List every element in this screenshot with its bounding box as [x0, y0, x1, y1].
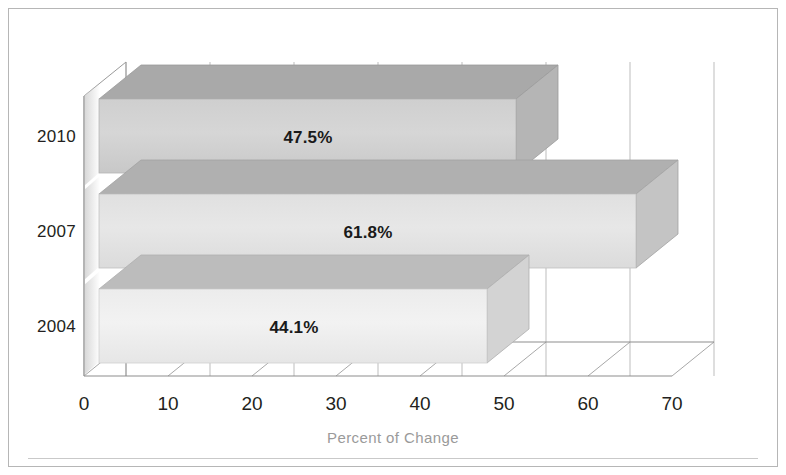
- bottom-divider: [28, 458, 758, 459]
- x-tick-40: 40: [390, 393, 450, 415]
- x-tick-60: 60: [558, 393, 618, 415]
- value-label-2007: 61.8%: [308, 223, 428, 243]
- x-tick-30: 30: [306, 393, 366, 415]
- x-tick-20: 20: [222, 393, 282, 415]
- x-tick-70: 70: [642, 393, 702, 415]
- x-tick-50: 50: [474, 393, 534, 415]
- chart-figure: 2010 2007 2004 0 10 20 30 40 50 60 70 47…: [0, 0, 786, 475]
- x-tick-10: 10: [138, 393, 198, 415]
- value-label-2010: 47.5%: [248, 128, 368, 148]
- value-label-2004: 44.1%: [234, 318, 354, 338]
- x-tick-0: 0: [54, 393, 114, 415]
- x-axis-title: Percent of Change: [0, 429, 786, 446]
